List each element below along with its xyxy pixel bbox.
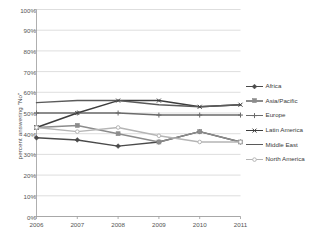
data-point-marker	[116, 132, 120, 136]
data-point-marker	[253, 158, 257, 162]
data-point-marker	[116, 126, 120, 130]
legend-swatch-icon	[246, 111, 263, 120]
legend-item-north-america[interactable]: North America	[246, 152, 305, 167]
legend-item-africa[interactable]: Africa	[246, 79, 305, 94]
legend-label: Europe	[266, 112, 286, 118]
chart-container: percent answering "No" 0%10%20%30%40%50%…	[0, 0, 314, 251]
x-axis-tick-label: 2010	[193, 221, 207, 228]
data-point-marker	[253, 128, 257, 132]
x-axis-tick-labels: 200620072008200920102011	[0, 221, 314, 235]
x-axis-tick-label: 2009	[152, 221, 166, 228]
chart-legend: AfricaAsia/PacificEuropeLatin AmericaMid…	[246, 79, 305, 167]
x-axis-tick-label: 2008	[111, 221, 125, 228]
legend-item-europe[interactable]: Europe	[246, 108, 305, 123]
legend-item-middle-east[interactable]: Middle East	[246, 137, 305, 152]
data-point-marker	[198, 130, 202, 134]
legend-label: Latin America	[266, 127, 304, 133]
legend-swatch-icon	[246, 140, 263, 149]
data-point-marker	[35, 126, 39, 130]
legend-swatch-icon	[246, 96, 263, 105]
data-point-marker	[253, 99, 257, 103]
x-axis-tick-label: 2007	[70, 221, 84, 228]
x-axis-tick-label: 2006	[30, 221, 44, 228]
legend-label: Middle East	[266, 142, 298, 148]
data-point-marker	[239, 140, 243, 144]
legend-swatch-icon	[246, 155, 263, 164]
data-point-marker	[157, 134, 161, 138]
legend-label: Asia/Pacific	[266, 98, 298, 104]
data-point-marker	[252, 84, 257, 89]
legend-label: Africa	[266, 83, 282, 89]
x-axis-tick-label: 2011	[234, 221, 247, 228]
legend-item-asia-pacific[interactable]: Asia/Pacific	[246, 94, 305, 109]
legend-swatch-icon	[246, 82, 263, 91]
data-point-marker	[252, 113, 257, 118]
legend-label: North America	[266, 156, 305, 162]
data-point-marker	[76, 130, 80, 134]
data-point-marker	[157, 140, 161, 144]
legend-swatch-icon	[246, 126, 263, 135]
data-point-marker	[75, 123, 79, 127]
legend-item-latin-america[interactable]: Latin America	[246, 123, 305, 138]
data-point-marker	[198, 140, 202, 144]
